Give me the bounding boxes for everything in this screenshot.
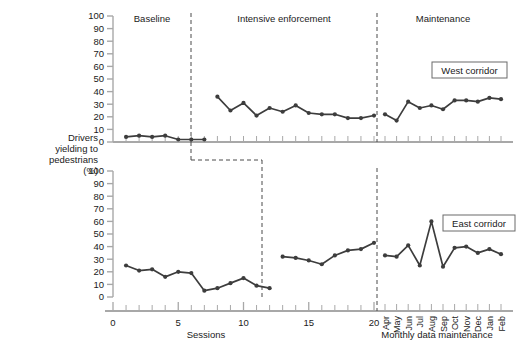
data-point — [307, 258, 311, 262]
x-tick-label: 20 — [369, 317, 380, 328]
data-point — [254, 284, 258, 288]
bottom-panel: 0102030405060708090100 05101520 East cor… — [88, 165, 515, 333]
y-tick-label: 50 — [93, 228, 104, 239]
phase-label-maintenance: Maintenance — [416, 13, 470, 24]
bottom-y-tick-labels: 0102030405060708090100 — [88, 165, 104, 302]
data-line — [126, 266, 270, 291]
legend-west-corridor-label: West corridor — [441, 65, 497, 76]
x-tick-label: 10 — [238, 317, 249, 328]
data-point — [395, 255, 399, 259]
data-point — [383, 253, 387, 257]
y-tick-label: 60 — [93, 61, 104, 72]
top-y-tick-labels: 0102030405060708090100 — [88, 10, 104, 147]
y-tick-label: 30 — [93, 254, 104, 265]
y-tick-label: 80 — [93, 36, 104, 47]
data-point — [202, 289, 206, 293]
data-point — [499, 252, 503, 256]
data-point — [453, 98, 457, 102]
data-point — [418, 263, 422, 267]
legend-east-corridor-label: East corridor — [452, 218, 506, 229]
data-point — [406, 100, 410, 104]
month-tick-label: Oct — [450, 316, 460, 331]
bottom-y-ticks — [107, 171, 113, 297]
data-point — [499, 97, 503, 101]
data-point — [137, 268, 141, 272]
x-axis-title-monthly: Monthly data maintenance — [381, 329, 492, 340]
data-point — [176, 270, 180, 274]
data-point — [476, 251, 480, 255]
data-point — [320, 112, 324, 116]
chart-svg: 0102030405060708090100 Baseline Intensiv… — [0, 0, 530, 354]
y-tick-label: 0 — [99, 136, 104, 147]
bottom-x-tick-labels: 05101520 — [110, 317, 379, 328]
data-point — [228, 108, 232, 112]
data-point — [124, 263, 128, 267]
data-point — [333, 112, 337, 116]
data-point — [124, 135, 128, 139]
y-tick-label: 40 — [93, 241, 104, 252]
data-point — [137, 134, 141, 138]
data-point — [294, 256, 298, 260]
data-point — [189, 271, 193, 275]
data-point — [215, 95, 219, 99]
y-axis-title-line-1: Drivers — [68, 132, 98, 143]
y-tick-label: 90 — [93, 178, 104, 189]
y-tick-label: 60 — [93, 216, 104, 227]
top-y-ticks — [107, 16, 113, 142]
y-tick-label: 100 — [88, 10, 104, 21]
data-point — [150, 267, 154, 271]
y-tick-label: 20 — [93, 111, 104, 122]
data-point — [228, 281, 232, 285]
y-tick-label: 0 — [99, 291, 104, 302]
data-point — [163, 134, 167, 138]
chart-figure: 0102030405060708090100 Baseline Intensiv… — [0, 0, 530, 354]
data-point — [176, 137, 180, 141]
y-tick-label: 10 — [93, 279, 104, 290]
data-point — [406, 243, 410, 247]
data-point — [333, 253, 337, 257]
data-point — [372, 113, 376, 117]
x-tick-label: 0 — [110, 317, 115, 328]
data-point — [429, 103, 433, 107]
data-point — [359, 116, 363, 120]
y-tick-label: 50 — [93, 73, 104, 84]
y-tick-label: 30 — [93, 99, 104, 110]
phase-label-intensive: Intensive enforcement — [237, 13, 331, 24]
data-point — [487, 96, 491, 100]
y-axis-title-line-2: yielding to — [55, 143, 98, 154]
data-point — [453, 246, 457, 250]
y-axis-title-line-3: pedestrians — [49, 154, 98, 165]
data-point — [163, 275, 167, 279]
x-axis-title-sessions: Sessions — [187, 329, 226, 340]
data-point — [429, 219, 433, 223]
data-point — [268, 106, 272, 110]
month-tick-label: Feb — [497, 316, 507, 332]
data-point — [150, 135, 154, 139]
data-point — [307, 111, 311, 115]
month-tick-label: Apr — [381, 316, 391, 330]
y-tick-label: 100 — [88, 165, 104, 176]
data-line — [283, 243, 374, 264]
top-series-group — [124, 95, 503, 142]
data-point — [215, 286, 219, 290]
data-point — [464, 98, 468, 102]
data-point — [346, 116, 350, 120]
data-point — [464, 245, 468, 249]
data-point — [320, 262, 324, 266]
data-point — [294, 103, 298, 107]
y-tick-label: 40 — [93, 86, 104, 97]
panel-connector — [191, 142, 262, 297]
bottom-x-ticks — [113, 302, 501, 311]
data-point — [281, 110, 285, 114]
data-point — [346, 248, 350, 252]
data-point — [487, 247, 491, 251]
data-point — [359, 247, 363, 251]
phase-label-baseline: Baseline — [134, 13, 170, 24]
data-point — [395, 118, 399, 122]
data-point — [268, 286, 272, 290]
top-panel: 0102030405060708090100 Baseline Intensiv… — [88, 10, 513, 147]
data-point — [441, 107, 445, 111]
data-point — [241, 276, 245, 280]
y-tick-label: 20 — [93, 266, 104, 277]
data-point — [418, 106, 422, 110]
